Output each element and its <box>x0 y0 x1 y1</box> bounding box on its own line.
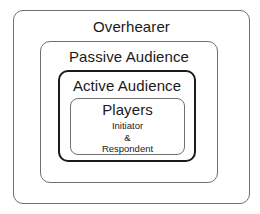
passive-audience-label: Passive Audience <box>41 48 217 65</box>
players-label: Players <box>71 101 184 118</box>
initiator-label: Initiator <box>71 120 184 132</box>
players-box: Players Initiator & Respondent <box>70 98 185 155</box>
active-audience-label: Active Audience <box>60 77 194 94</box>
players-members: Initiator & Respondent <box>71 120 184 155</box>
overhearer-label: Overhearer <box>14 18 249 35</box>
diagram-canvas: Overhearer Passive Audience Active Audie… <box>0 0 260 214</box>
respondent-label: Respondent <box>71 143 184 155</box>
ampersand-label: & <box>71 132 184 144</box>
